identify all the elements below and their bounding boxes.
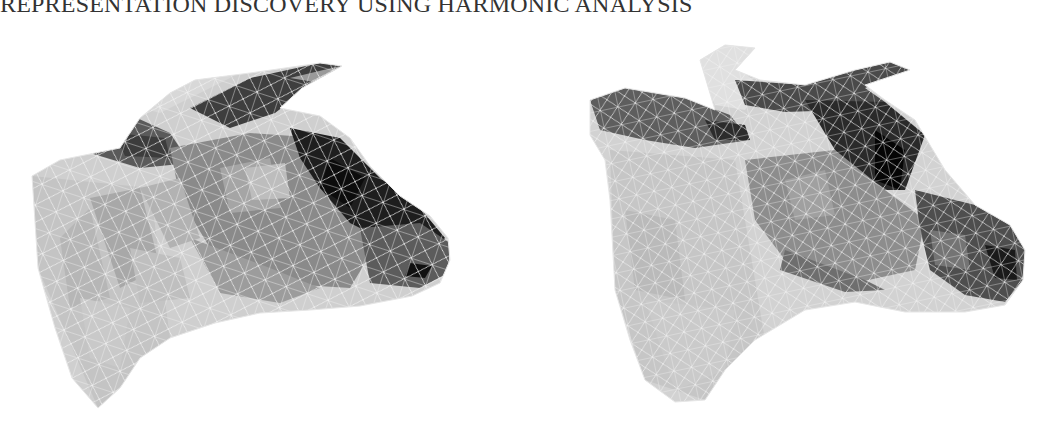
mesh-panel-left: [20, 38, 460, 410]
figure: [0, 0, 1050, 432]
cow-mesh-right-image: [585, 40, 1030, 412]
cow-mesh-left-image: [20, 38, 460, 410]
mesh-panel-right: [585, 40, 1030, 412]
